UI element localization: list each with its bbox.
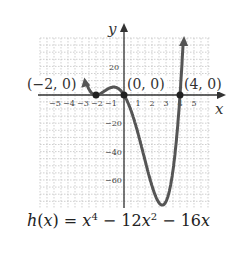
label-point-neg2-0: (−2, 0) [27, 76, 76, 92]
svg-text:−2: −2 [91, 99, 103, 108]
y-tick-labels: 20−20−40−60 [105, 63, 122, 186]
chart: y x −5−4−3−2−112345 20−20−40−60 (−2, 0) … [0, 0, 237, 275]
svg-text:2: 2 [150, 99, 155, 108]
svg-text:3: 3 [164, 99, 169, 108]
svg-text:−3: −3 [77, 99, 89, 108]
label-point-0-0: (0, 0) [127, 76, 165, 92]
x-axis-label: x [215, 100, 224, 118]
svg-text:−1: −1 [105, 99, 117, 108]
point-neg2-0 [93, 92, 100, 99]
x-axis-arrow-icon [217, 91, 226, 99]
svg-text:5: 5 [192, 99, 197, 108]
svg-text:1: 1 [136, 99, 141, 108]
grid [40, 38, 210, 208]
label-point-4-0: (4, 0) [184, 76, 222, 92]
svg-text:−60: −60 [105, 176, 122, 185]
point-0-0 [121, 92, 128, 99]
function-curve [87, 44, 183, 205]
svg-text:−20: −20 [105, 119, 122, 128]
svg-text:−5: −5 [49, 99, 61, 108]
y-axis-arrow-icon [120, 23, 128, 32]
x-tick-labels: −5−4−3−2−112345 [49, 99, 197, 108]
function-equation: h(x) = x4 − 12x2 − 16x [0, 211, 237, 230]
svg-text:−4: −4 [63, 99, 75, 108]
svg-text:20: 20 [109, 63, 119, 72]
point-4-0 [177, 92, 184, 99]
svg-text:−40: −40 [105, 148, 122, 157]
y-axis-label: y [107, 20, 117, 38]
curve-arrow-right-icon [179, 36, 188, 46]
